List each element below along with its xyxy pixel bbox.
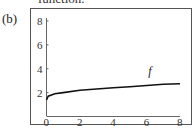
x-tick-label: 2 (77, 116, 83, 128)
y-tick-label: 8 (37, 15, 43, 27)
x-tick-label: 4 (110, 116, 116, 128)
curve-label-f: f (148, 64, 153, 78)
x-ticks: 02468 (44, 116, 184, 128)
x-tick-label: 0 (44, 116, 50, 128)
y-tick-label: 6 (37, 39, 43, 51)
x-tick-label: 8 (177, 116, 183, 128)
y-tick-label: 4 (37, 63, 43, 75)
y-tick-label: 2 (37, 87, 43, 99)
function-curve-f (47, 84, 181, 100)
x-tick-label: 6 (144, 116, 150, 128)
chart-plot: 2468 02468 f (0, 0, 195, 130)
